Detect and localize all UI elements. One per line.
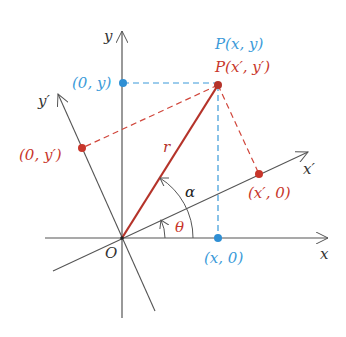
y-axis-label: y — [103, 27, 113, 45]
point-0-y-prime — [78, 144, 86, 152]
label-0-y-prime: (0, y′) — [19, 146, 62, 164]
radius-line — [122, 85, 218, 238]
origin-dot — [120, 236, 124, 240]
point-p-red-label: P(x′, y′) — [214, 58, 270, 76]
y-prime-axis-label: y′ — [37, 92, 50, 110]
label-0-y: (0, y) — [72, 74, 111, 92]
alpha-label: α — [185, 183, 195, 201]
point-p — [214, 81, 222, 89]
label-x-0: (x, 0) — [204, 249, 243, 267]
point-p-blue-label: P(x, y) — [214, 35, 263, 53]
rotation-diagram: y x y′ x′ O P(x, y) P(x′, y′) (0, y) (x,… — [0, 0, 346, 337]
red-dash-to-x-prime — [218, 85, 259, 174]
theta-label: θ — [175, 218, 184, 236]
label-x-prime-0: (x′, 0) — [248, 184, 291, 202]
radius-label: r — [163, 138, 171, 156]
theta-arc — [161, 220, 165, 238]
point-x-prime-0 — [255, 170, 263, 178]
point-x-0 — [214, 234, 222, 242]
y-prime-axis — [58, 94, 155, 311]
x-axis-label: x — [320, 245, 329, 263]
origin-label: O — [105, 244, 117, 262]
point-0-y — [119, 79, 127, 87]
x-prime-axis-label: x′ — [303, 160, 315, 178]
x-prime-axis — [53, 152, 308, 271]
